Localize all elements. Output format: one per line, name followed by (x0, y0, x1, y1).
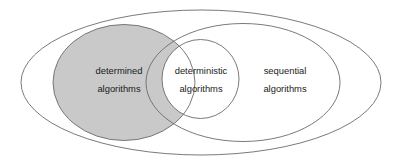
sequential-algorithms-region (146, 24, 340, 142)
sequential-algorithms-label-line2: algorithms (263, 83, 307, 94)
determined-algorithms-label-line2: algorithms (97, 83, 141, 94)
sequential-algorithms-label-line1: sequential (264, 65, 307, 76)
venn-diagram-svg: determined algorithms deterministic algo… (0, 0, 402, 167)
euler-diagram-canvas: determined algorithms deterministic algo… (0, 0, 402, 167)
deterministic-algorithms-label-line2: algorithms (179, 83, 223, 94)
determined-algorithms-label-line1: determined (96, 65, 143, 76)
deterministic-algorithms-label-line1: deterministic (175, 65, 228, 76)
